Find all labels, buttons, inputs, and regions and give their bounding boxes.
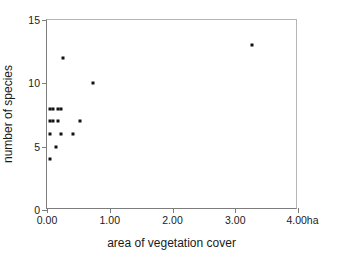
y-axis-tick	[42, 20, 47, 21]
data-point	[60, 107, 63, 110]
y-axis-tick-label: 15	[28, 15, 40, 26]
y-axis-tick-label: 5	[34, 141, 40, 152]
x-axis-tick-value: 3.00	[225, 214, 245, 226]
data-point	[56, 120, 59, 123]
data-point	[48, 133, 51, 136]
y-axis-tick	[42, 147, 47, 148]
y-axis-title: number of species	[0, 19, 16, 209]
y-axis-tick	[42, 83, 47, 84]
data-point	[60, 133, 63, 136]
data-point	[54, 145, 57, 148]
x-axis-tick	[298, 208, 299, 213]
data-point	[92, 82, 95, 85]
x-axis-tick	[235, 208, 236, 213]
data-point	[52, 120, 55, 123]
x-axis-tick-label: 0.00	[37, 215, 57, 226]
x-axis-tick	[173, 208, 174, 213]
x-axis-tick-label: 3.00	[225, 215, 245, 226]
data-point	[72, 133, 75, 136]
x-axis-tick-value: 1.00	[100, 214, 120, 226]
data-point	[52, 107, 55, 110]
x-axis-tick-label: 2.00	[162, 215, 182, 226]
x-axis-tick-label: 1.00	[100, 215, 120, 226]
x-axis-title-label: area of vegetation cover	[107, 236, 236, 250]
x-axis-tick	[47, 208, 48, 213]
data-point	[62, 57, 65, 60]
x-axis-tick	[110, 208, 111, 213]
x-axis-tick-value: 0.00	[37, 214, 57, 226]
y-axis-title-label: number of species	[2, 65, 14, 163]
x-axis-unit-label: ha	[307, 214, 319, 226]
plot-area: 051015 0.001.002.003.004.00ha	[46, 19, 297, 209]
data-point	[250, 44, 253, 47]
data-point	[78, 120, 81, 123]
x-axis-tick-label: 4.00ha	[286, 215, 318, 226]
x-axis-tick-value: 4.00	[286, 214, 306, 226]
data-point	[49, 158, 52, 161]
scatter-plot-figure: 051015 0.001.002.003.004.00ha number of …	[0, 0, 337, 260]
x-axis-title: area of vegetation cover	[46, 237, 297, 249]
x-axis-tick-value: 2.00	[162, 214, 182, 226]
y-axis-tick-label: 10	[28, 78, 40, 89]
